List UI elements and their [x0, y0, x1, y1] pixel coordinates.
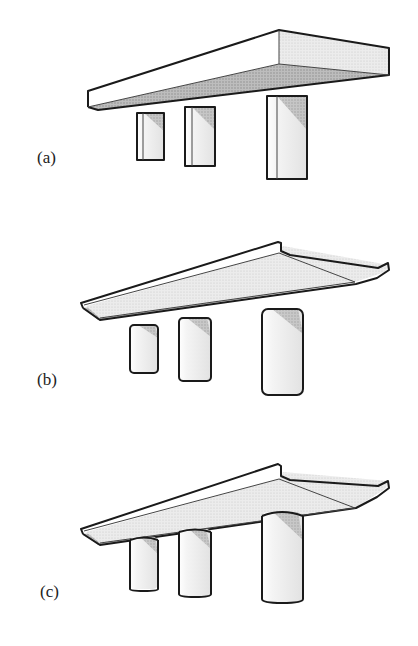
pier-c-3	[262, 512, 303, 603]
bridge-drawings	[0, 0, 418, 646]
pier-a-1	[137, 113, 164, 160]
pier-c-1	[130, 537, 158, 591]
pier-a-2	[185, 107, 215, 166]
panel-c-drawing	[81, 464, 389, 603]
panel-a-drawing	[88, 30, 389, 179]
pier-b-3	[262, 309, 303, 395]
pier-b-1	[130, 325, 158, 373]
panel-label-b: (b)	[37, 370, 57, 390]
pier-a-3	[267, 96, 307, 179]
bridge-configurations-figure: (a) (b) (c)	[0, 0, 418, 646]
panel-label-a: (a)	[37, 148, 56, 168]
pier-b-2	[179, 318, 211, 381]
panel-b-drawing	[81, 242, 389, 395]
panel-label-c: (c)	[40, 582, 59, 602]
pier-c-2	[179, 529, 211, 597]
